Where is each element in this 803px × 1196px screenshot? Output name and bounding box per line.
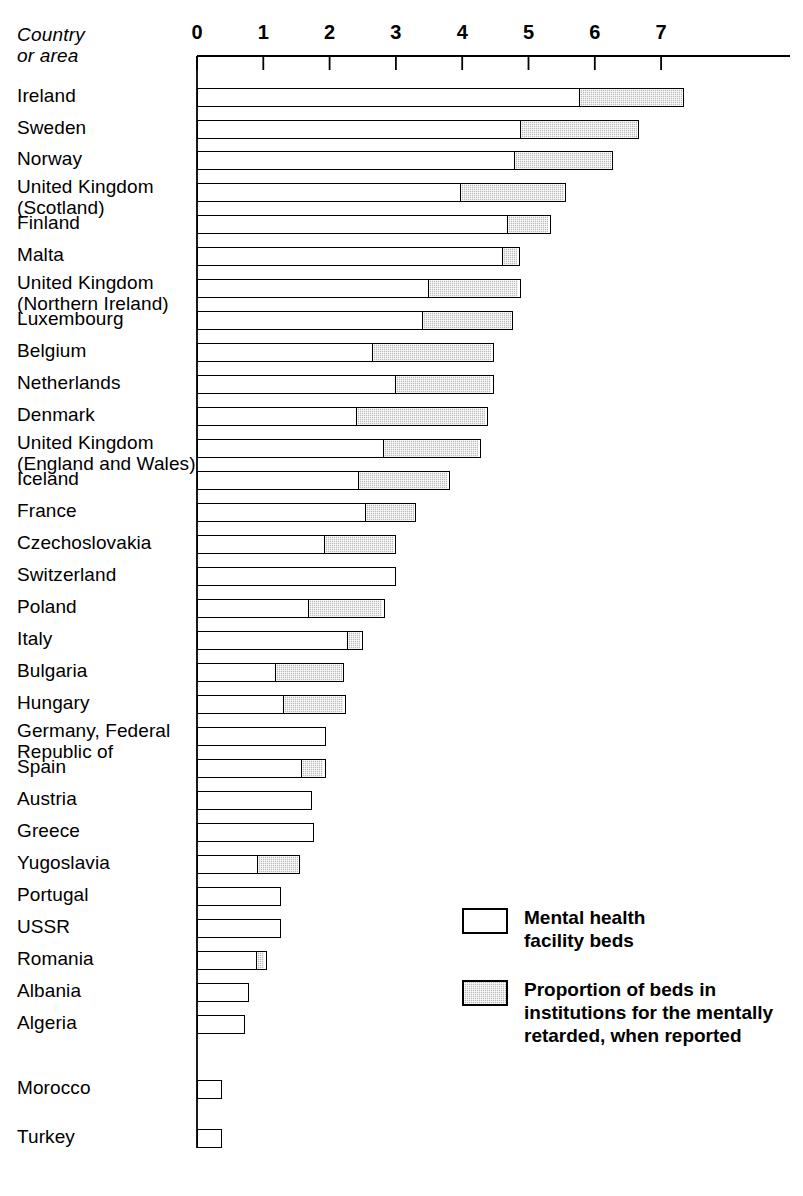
mental-health-beds-segment <box>198 472 359 489</box>
mental-health-beds-segment <box>198 184 462 201</box>
mental-health-beds-segment <box>198 1081 221 1098</box>
stacked-bar <box>197 759 326 778</box>
mental-health-beds-segment <box>198 248 504 265</box>
mentally-retarded-institution-segment <box>507 216 549 233</box>
country-label: Yugoslavia <box>17 852 110 873</box>
country-label: Romania <box>17 948 94 969</box>
mental-health-beds-segment <box>198 312 423 329</box>
stacked-bar <box>197 279 521 298</box>
mental-health-beds-segment <box>198 280 429 297</box>
stacked-bar <box>197 151 613 170</box>
stacked-bar <box>197 120 639 139</box>
mentally-retarded-institution-segment <box>579 89 681 106</box>
country-label: Denmark <box>17 404 95 425</box>
country-label: Switzerland <box>17 564 116 585</box>
mentally-retarded-institution-segment <box>283 696 343 713</box>
stacked-bar <box>197 983 249 1002</box>
stacked-bar <box>197 1080 222 1099</box>
country-label: Norway <box>17 148 82 169</box>
mentally-retarded-institution-segment <box>520 121 636 138</box>
country-label: Austria <box>17 788 77 809</box>
mental-health-beds-segment <box>198 824 313 841</box>
country-label: Poland <box>17 596 77 617</box>
stacked-bar <box>197 599 385 618</box>
stacked-bar <box>197 951 267 970</box>
stacked-bar <box>197 727 326 746</box>
country-label: Albania <box>17 980 81 1001</box>
country-label: Czechoslovakia <box>17 532 151 553</box>
stacked-bar <box>197 439 481 458</box>
stacked-bar <box>197 855 300 874</box>
mental-health-beds-segment <box>198 568 395 585</box>
mental-health-beds-segment <box>198 504 366 521</box>
mentally-retarded-institution-segment <box>502 248 517 265</box>
stacked-bar <box>197 631 363 650</box>
country-label: Hungary <box>17 692 90 713</box>
legend-label: Proportion of beds in institutions for t… <box>524 978 773 1047</box>
mental-health-beds-segment <box>198 696 284 713</box>
stacked-bar <box>197 343 494 362</box>
country-label: Morocco <box>17 1077 91 1098</box>
mental-health-beds-segment <box>198 408 358 425</box>
mental-health-beds-segment <box>198 728 325 745</box>
mental-health-beds-segment <box>198 121 522 138</box>
stacked-bar <box>197 88 684 107</box>
legend-label: Mental health facility beds <box>524 906 645 952</box>
stacked-bar <box>197 1129 222 1148</box>
stacked-bar <box>197 311 513 330</box>
country-label: Netherlands <box>17 372 121 393</box>
mentally-retarded-institution-segment <box>301 760 323 777</box>
country-label: Sweden <box>17 117 86 138</box>
mental-health-beds-segment <box>198 632 349 649</box>
country-label: Greece <box>17 820 80 841</box>
country-label: Italy <box>17 628 52 649</box>
mental-health-beds-segment <box>198 152 516 169</box>
mental-health-beds-segment <box>198 440 384 457</box>
stacked-bar <box>197 247 520 266</box>
country-label: Algeria <box>17 1012 77 1033</box>
stacked-bar <box>197 919 281 938</box>
mentally-retarded-institution-segment <box>383 440 478 457</box>
stacked-bar <box>197 887 281 906</box>
stacked-bar <box>197 503 416 522</box>
mentally-retarded-institution-segment <box>428 280 518 297</box>
stacked-bar <box>197 535 396 554</box>
mentally-retarded-institution-segment <box>324 536 393 553</box>
mental-health-beds-segment <box>198 856 258 873</box>
mentally-retarded-institution-segment <box>358 472 447 489</box>
mental-health-beds-segment <box>198 536 326 553</box>
mentally-retarded-institution-segment <box>422 312 511 329</box>
mental-health-beds-segment <box>198 1016 244 1033</box>
country-label: Turkey <box>17 1126 75 1147</box>
country-label: Luxembourg <box>17 308 124 329</box>
legend-item: Mental health facility beds <box>462 906 792 952</box>
stacked-bar <box>197 215 551 234</box>
stacked-bar <box>197 471 450 490</box>
stacked-bar <box>197 1015 245 1034</box>
mental-health-beds-segment <box>198 920 280 937</box>
mental-health-beds-segment <box>198 600 310 617</box>
country-label: Finland <box>17 212 80 233</box>
country-label: Malta <box>17 244 64 265</box>
mental-health-beds-segment <box>198 216 508 233</box>
country-label: Portugal <box>17 884 89 905</box>
mental-health-beds-segment <box>198 89 581 106</box>
chart-legend: Mental health facility bedsProportion of… <box>462 906 792 1073</box>
stacked-bar <box>197 183 566 202</box>
mental-health-beds-segment <box>198 888 280 905</box>
mentally-retarded-institution-segment <box>460 184 564 201</box>
mental-health-beds-segment <box>198 376 396 393</box>
stacked-bar <box>197 375 494 394</box>
mentally-retarded-institution-segment <box>256 952 264 969</box>
country-label: Belgium <box>17 340 86 361</box>
stacked-bar <box>197 663 344 682</box>
country-label: Iceland <box>17 468 79 489</box>
legend-swatch-hatched-icon <box>462 980 508 1006</box>
mentally-retarded-institution-segment <box>365 504 414 521</box>
stacked-bar <box>197 695 346 714</box>
country-label: France <box>17 500 77 521</box>
mentally-retarded-institution-segment <box>275 664 342 681</box>
mental-health-beds-segment <box>198 952 258 969</box>
mental-health-beds-segment <box>198 984 248 1001</box>
country-label: Bulgaria <box>17 660 88 681</box>
